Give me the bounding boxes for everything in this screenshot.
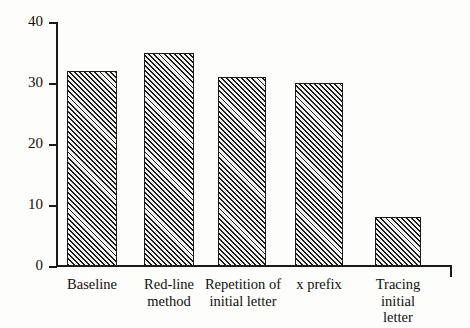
bar [295,83,343,266]
y-axis-tick-label: 20 [3,136,43,151]
bar [218,77,266,266]
bar [67,71,117,266]
y-axis-tick-mark [49,205,57,207]
y-axis-tick-label: 0 [3,258,43,273]
y-axis-tick-label: 40 [3,14,43,29]
bar [375,217,421,266]
x-axis-category-label: Tracing initial letter [360,276,436,326]
y-axis-tick-mark [49,22,57,24]
x-axis-category-label: x prefix [282,276,356,293]
bar [144,53,194,267]
x-axis-category-label: Repetition of initial letter [198,276,288,309]
bar-chart: 403020100 BaselineRed-line methodRepetit… [0,0,470,328]
y-axis-tick-mark [49,266,57,268]
x-axis-end-tick [450,265,452,277]
x-axis-category-label: Red-line method [129,276,209,309]
y-axis-tick-label: 30 [3,75,43,90]
y-axis-tick-mark [49,144,57,146]
y-axis-tick-label: 10 [3,197,43,212]
y-axis-tick-mark [49,83,57,85]
x-axis-category-label: Baseline [52,276,132,293]
